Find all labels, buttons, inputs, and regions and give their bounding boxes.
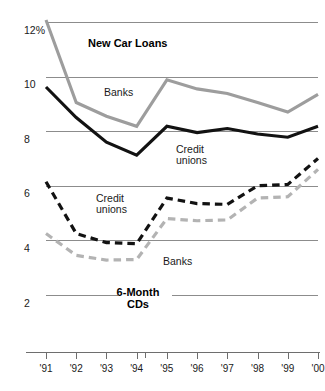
chart-annotation: unions <box>176 154 207 166</box>
x-tick-label: '98 <box>251 363 264 374</box>
y-tick-label: 4 <box>24 242 30 254</box>
y-tick-label: 8 <box>24 133 30 145</box>
x-axis-label-group: '91'92'93'94'95'96'97'98'99'00 <box>39 363 324 374</box>
chart-canvas: 12%108642 New Car LoansBanksCreditunions… <box>0 0 325 391</box>
chart-annotation: Banks <box>104 86 133 98</box>
series-line <box>46 20 318 126</box>
y-tick-label: 6 <box>24 187 30 199</box>
x-tick-label: '97 <box>221 363 234 374</box>
y-tick-label: 10 <box>24 78 36 90</box>
x-tick-label: '99 <box>281 363 294 374</box>
x-axis-group <box>26 353 320 359</box>
chart-annotation: 6-Month <box>117 286 160 298</box>
y-axis-label-group: 12%108642 <box>24 24 45 309</box>
chart-annotation: New Car Loans <box>88 37 167 49</box>
series-line <box>46 159 318 244</box>
x-tick-label: '93 <box>100 363 113 374</box>
chart-annotation: Banks <box>163 255 192 267</box>
data-series-group <box>46 20 318 260</box>
interest-rates-line-chart: 12%108642 New Car LoansBanksCreditunions… <box>0 0 325 391</box>
annotation-group: New Car LoansBanksCreditunionsCreditunio… <box>88 37 207 310</box>
x-tick-label: '91 <box>39 363 52 374</box>
chart-annotation: unions <box>96 203 127 215</box>
x-tick-label: '92 <box>70 363 83 374</box>
y-tick-label: 2 <box>24 297 30 309</box>
y-tick-label: 12% <box>24 24 45 36</box>
x-tick-label: '00 <box>311 363 324 374</box>
x-tick-label: '94 <box>130 363 143 374</box>
series-line <box>46 169 318 260</box>
chart-annotation: CDs <box>127 298 149 310</box>
x-tick-label: '95 <box>160 363 173 374</box>
x-tick-label: '96 <box>191 363 204 374</box>
